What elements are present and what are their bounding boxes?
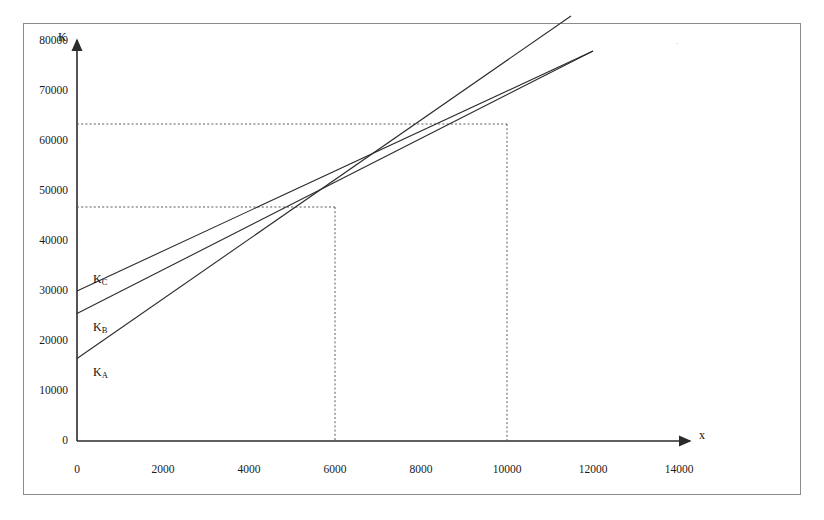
y-tick-label-30000: 30000 bbox=[20, 284, 68, 296]
y-tick-label-40000: 40000 bbox=[20, 234, 68, 246]
x-tick-label-6000: 6000 bbox=[305, 463, 365, 475]
series-label-K-A: KA bbox=[93, 365, 108, 380]
series-label-K-B-subscript: B bbox=[102, 325, 108, 335]
x-axis-title: x bbox=[699, 428, 705, 443]
y-tick-label-50000: 50000 bbox=[20, 184, 68, 196]
y-tick-label-60000: 60000 bbox=[20, 134, 68, 146]
chart-page: K x 0 10000 20000 30000 40000 50000 6000… bbox=[0, 0, 824, 520]
series-label-K-A-subscript: A bbox=[102, 370, 108, 380]
series-label-K-C-subscript: C bbox=[102, 277, 108, 287]
y-tick-label-10000: 10000 bbox=[20, 384, 68, 396]
scan-artifact-mark: . bbox=[676, 38, 678, 46]
x-tick-label-8000: 8000 bbox=[391, 463, 451, 475]
y-tick-label-20000: 20000 bbox=[20, 334, 68, 346]
series-label-K-A-base: K bbox=[93, 365, 102, 379]
series-label-K-C: KC bbox=[93, 272, 107, 287]
x-tick-label-4000: 4000 bbox=[219, 463, 279, 475]
y-tick-label-0: 0 bbox=[20, 434, 68, 446]
x-tick-label-2000: 2000 bbox=[133, 463, 193, 475]
x-tick-label-14000: 14000 bbox=[649, 463, 709, 475]
series-label-K-C-base: K bbox=[93, 272, 102, 286]
y-tick-label-70000: 70000 bbox=[20, 84, 68, 96]
x-tick-label-12000: 12000 bbox=[563, 463, 623, 475]
x-tick-label-10000: 10000 bbox=[477, 463, 537, 475]
series-label-K-B: KB bbox=[93, 320, 107, 335]
x-tick-label-0: 0 bbox=[47, 463, 107, 475]
chart-frame bbox=[23, 23, 801, 495]
y-tick-label-80000: 80000 bbox=[20, 34, 68, 46]
series-label-K-B-base: K bbox=[93, 320, 102, 334]
